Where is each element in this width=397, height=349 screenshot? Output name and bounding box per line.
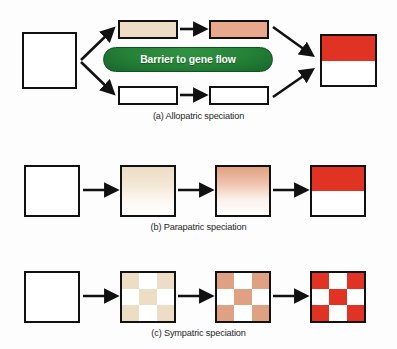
parapatric-ancestral-population [24,165,80,217]
allopatric-lower-isolate-late [209,86,269,105]
checker-tan-grid [122,273,174,321]
panel-parapatric: (b) Parapatric speciation [0,130,397,238]
caption-sympatric: (c) Sympatric speciation [0,328,397,338]
species-a-region [322,36,375,61]
allopatric-upper-isolate-late [209,20,269,39]
species-a-region [312,167,364,191]
caption-allopatric: (a) Allopatric speciation [0,111,397,121]
checker-salmon-grid [217,273,269,321]
panel-allopatric: Barrier to gene flow (a) Allopatric spec… [0,0,397,130]
barrier-to-gene-flow-pill: Barrier to gene flow [103,47,273,72]
gradient-salmon-fill [217,167,269,215]
speciation-diagram: Barrier to gene flow (a) Allopatric spec… [0,0,397,349]
sympatric-ancestral-population [24,271,80,323]
sympatric-mosaic-early [120,271,176,323]
caption-parapatric: (b) Parapatric speciation [0,222,397,232]
parapatric-gradient-early [120,165,176,217]
allopatric-ancestral-population [22,32,77,89]
parapatric-gradient-late [215,165,271,217]
panel-sympatric: (c) Sympatric speciation [0,238,397,349]
allopatric-upper-isolate-early [118,20,178,39]
gradient-tan-fill [122,167,174,215]
checker-red-grid [312,273,364,321]
barrier-to-gene-flow-label: Barrier to gene flow [140,54,236,65]
sympatric-mosaic-late [215,271,271,323]
sympatric-resulting-species-mosaic [310,271,366,323]
allopatric-lower-isolate-early [118,86,178,105]
species-b-region [322,61,375,86]
allopatric-resulting-species-pair [320,34,377,87]
species-b-region [312,191,364,215]
parapatric-resulting-species-pair [310,165,366,217]
